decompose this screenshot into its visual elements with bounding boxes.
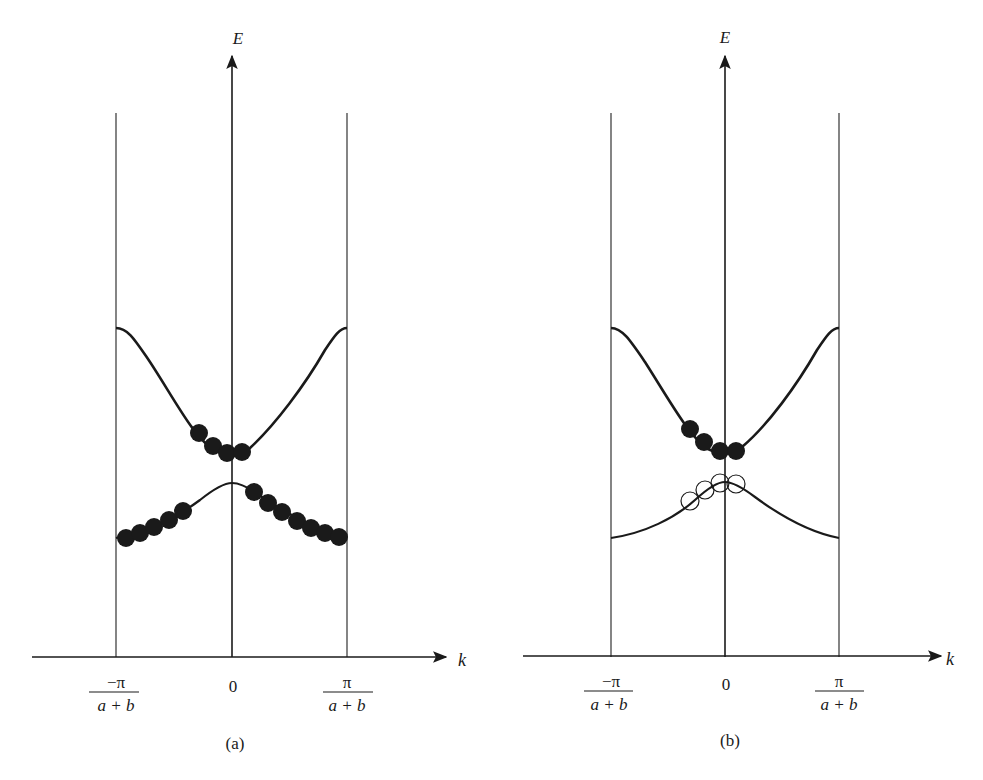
panel-caption: (b) [720, 731, 740, 750]
electron-dot [711, 442, 729, 460]
electron-dot [245, 483, 263, 501]
k-axis-label: k [946, 649, 955, 669]
tick-left-denominator: a + b [591, 695, 628, 714]
tick-left-denominator: a + b [98, 696, 135, 715]
tick-left: −π a + b [584, 672, 633, 714]
electron-dot [681, 420, 699, 438]
electron-dot [174, 502, 192, 520]
electron-dot [273, 503, 291, 521]
electron-dot [190, 424, 208, 442]
tick-right: π a + b [323, 673, 373, 715]
electron-dot [233, 443, 251, 461]
tick-left: −π a + b [89, 673, 139, 715]
band-diagram-figure: E k − [0, 0, 983, 780]
electron-dot [330, 528, 348, 546]
conduction-electrons [681, 420, 745, 460]
energy-axis-label: E [719, 28, 731, 47]
tick-center: 0 [722, 675, 731, 694]
tick-right-numerator: π [835, 672, 844, 691]
tick-center: 0 [229, 677, 238, 696]
conduction-electrons [190, 424, 251, 462]
hole-circle [681, 492, 699, 510]
tick-left-numerator: −π [602, 672, 621, 691]
panel-caption: (a) [226, 734, 245, 753]
energy-axis-label: E [232, 29, 244, 48]
tick-right: π a + b [815, 672, 864, 714]
k-axis-label: k [458, 650, 467, 670]
tick-right-denominator: a + b [821, 695, 858, 714]
panel-a: E k − [32, 29, 467, 753]
electron-dot [727, 442, 745, 460]
panel-b: E k −π a + b 0 π a + b [523, 28, 955, 750]
tick-right-denominator: a + b [329, 696, 366, 715]
electron-dot [695, 433, 713, 451]
tick-left-numerator: −π [107, 673, 126, 692]
tick-right-numerator: π [343, 673, 352, 692]
